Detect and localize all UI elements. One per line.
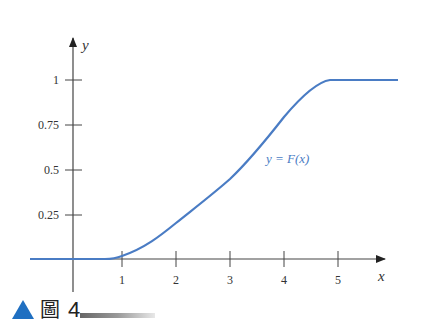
caption-gradient-bar — [80, 313, 155, 318]
triangle-icon — [12, 300, 34, 319]
x-tick-label-4: 4 — [281, 273, 287, 287]
x-tick-label-1: 1 — [119, 273, 125, 287]
chart-plot-area: 1 2 3 4 5 0.25 0.5 0.75 1 y x y = F(x) — [0, 0, 425, 300]
figure-number: 4 — [68, 299, 80, 321]
x-tick-label-3: 3 — [227, 273, 233, 287]
figure-caption: 圖 4 — [12, 297, 155, 321]
y-tick-label-1: 1 — [53, 73, 59, 87]
curve-label: y = F(x) — [264, 151, 309, 166]
x-tick-label-5: 5 — [335, 273, 341, 287]
x-tick-label-2: 2 — [173, 273, 179, 287]
cdf-curve — [30, 80, 398, 259]
y-axis-label: y — [80, 37, 89, 53]
y-tick-label-0.5: 0.5 — [44, 163, 59, 177]
y-tick-label-0.75: 0.75 — [38, 118, 59, 132]
x-tick-labels: 1 2 3 4 5 — [119, 273, 341, 287]
x-axis-label: x — [377, 268, 385, 284]
y-tick-label-0.25: 0.25 — [38, 208, 59, 222]
y-tick-labels: 0.25 0.5 0.75 1 — [38, 73, 59, 222]
figure-char: 圖 — [40, 299, 60, 321]
